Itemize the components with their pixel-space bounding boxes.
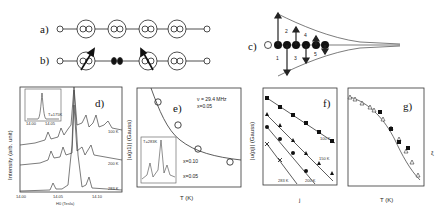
panel-d-chart: Intensity (arb. unit) d) T=175K 14.00 14… xyxy=(0,85,125,215)
empty-site xyxy=(265,42,272,49)
x-tick-3: 14.10 xyxy=(92,194,103,199)
y-axis-label: ξ xyxy=(431,150,434,156)
curve-label-x005: x=0.05 xyxy=(183,173,198,179)
panel-c-label: c) xyxy=(248,40,257,53)
chain-a xyxy=(57,20,210,38)
series-label-200k: 200 K xyxy=(305,178,316,183)
panel-e-chart: |u(p1)| (Gauss) e) ν = 29.4 MHz x=0.05 T… xyxy=(125,85,242,215)
panel-ab-diagram: a) b) xyxy=(0,0,230,80)
panel-b-label: b) xyxy=(40,54,50,67)
x-axis-label: H0 (Tesla) xyxy=(56,201,75,206)
panel-a-label: a) xyxy=(40,23,49,36)
series-label-283k: 283 K xyxy=(278,178,289,183)
chain-b xyxy=(57,52,210,70)
trace-label-200k: 200 K xyxy=(108,161,119,166)
trace-label-100k: 100 K xyxy=(108,129,119,134)
frequency-annotation: ν = 29.4 MHz xyxy=(197,96,227,102)
inset-label: T=175K xyxy=(48,112,62,117)
series-label-150k: 150 K xyxy=(319,156,330,161)
site-number-4: 4 xyxy=(304,32,307,38)
site-number-1: 1 xyxy=(276,55,279,61)
x-axis-label: j xyxy=(298,197,300,203)
series-label-100k: 100 K xyxy=(320,136,331,141)
x-axis-label: T (K) xyxy=(180,195,193,201)
site-number-5: 5 xyxy=(314,51,317,57)
y-axis-label: |u(p1)| (Gauss) xyxy=(126,120,132,160)
inset-xtick-2: 14.05 xyxy=(45,121,56,126)
panel-g-label: g) xyxy=(403,100,413,113)
concentration-annotation: x=0.05 xyxy=(197,103,212,109)
site-number-2: 2 xyxy=(285,28,288,34)
curve-label-x010: x=0.10 xyxy=(183,158,198,164)
series-filled-squares xyxy=(378,110,410,150)
inset-xtick-1: 14.00 xyxy=(26,121,37,126)
panel-f-label: f) xyxy=(323,97,331,110)
panel-d-label: d) xyxy=(95,97,105,110)
x-axis-label: T (K) xyxy=(380,197,393,203)
trace-label-283k: 283 K xyxy=(108,186,119,191)
y-axis-label: Intensity (arb. unit) xyxy=(7,130,13,180)
fit-lines xyxy=(267,98,335,184)
panel-g-chart: g) ξ T (K) xyxy=(340,85,442,215)
site-number-3: 3 xyxy=(294,55,297,61)
inset-label: T=283K xyxy=(143,139,157,144)
moment-arrows xyxy=(275,13,328,75)
x-tick-2: 14.05 xyxy=(53,194,64,199)
x-tick-1: 14.00 xyxy=(16,194,27,199)
panel-e-label: e) xyxy=(173,102,182,115)
y-axis-label: |u(pj)| (Gauss) xyxy=(249,122,255,160)
panel-f-chart: |u(pj)| (Gauss) f) 100 K 150 K 200 K 283… xyxy=(245,85,340,215)
panel-c-diagram: c) 1 2 3 4 5 xyxy=(230,0,442,85)
